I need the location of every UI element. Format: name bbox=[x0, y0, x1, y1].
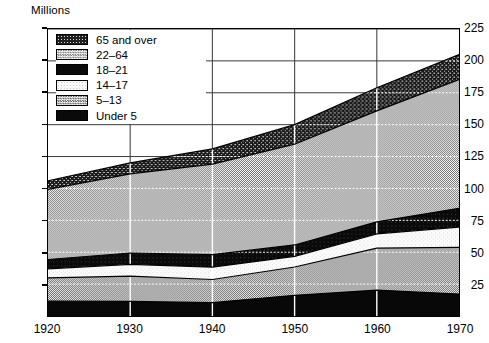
legend-item-label: 22–64 bbox=[96, 49, 128, 61]
legend-swatch-solid-black bbox=[56, 64, 88, 75]
legend-item: 18–21 bbox=[56, 62, 206, 77]
legend-item: 5–13 bbox=[56, 93, 206, 108]
legend-swatch-solid-black bbox=[56, 110, 88, 121]
legend-item: Under 5 bbox=[56, 108, 206, 123]
legend: 65 and over22–6418–2114–175–13Under 5 bbox=[56, 30, 206, 124]
x-tick-label: 1920 bbox=[17, 323, 77, 335]
x-tick-label: 1950 bbox=[265, 323, 325, 335]
legend-item-label: Under 5 bbox=[96, 110, 137, 122]
legend-item-label: 65 and over bbox=[96, 34, 157, 46]
legend-swatch-dark-speckle-pattern bbox=[56, 34, 88, 45]
legend-swatch-near-white-pattern bbox=[56, 80, 88, 91]
legend-swatch-medium-checker-pattern bbox=[56, 95, 88, 106]
y-axis-title: Millions bbox=[31, 4, 70, 17]
x-tick-label: 1960 bbox=[347, 323, 407, 335]
legend-item: 22–64 bbox=[56, 47, 206, 62]
legend-item: 65 and over bbox=[56, 32, 206, 47]
x-tick-label: 1930 bbox=[100, 323, 160, 335]
x-tick-label: 1940 bbox=[182, 323, 242, 335]
legend-item-label: 18–21 bbox=[96, 64, 128, 76]
legend-swatch-light-checker-pattern bbox=[56, 49, 88, 60]
x-tick-label: 1970 bbox=[430, 323, 489, 335]
legend-item: 14–17 bbox=[56, 78, 206, 93]
legend-item-label: 14–17 bbox=[96, 79, 128, 91]
legend-item-label: 5–13 bbox=[96, 94, 122, 106]
